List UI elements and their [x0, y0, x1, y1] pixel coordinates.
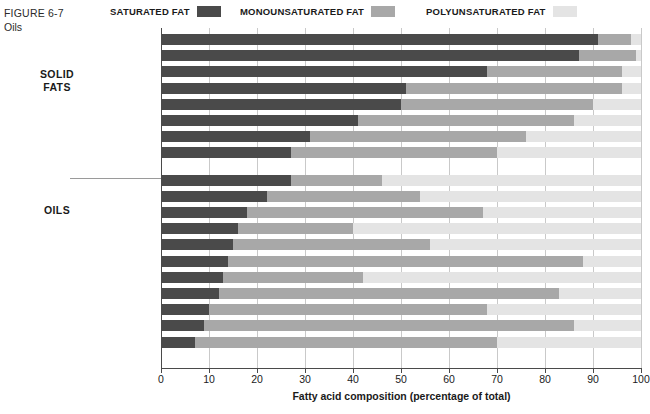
- bar-segment-polyunsaturated[interactable]: [487, 304, 641, 315]
- x-axis-title: Fatty acid composition (percentage of to…: [161, 390, 642, 402]
- bar-segment-monounsaturated[interactable]: [310, 131, 526, 142]
- legend-label-polyunsaturated-fat: POLYUNSATURATED FAT: [426, 6, 546, 17]
- bar-segment-polyunsaturated[interactable]: [382, 175, 641, 186]
- bar-row[interactable]: Olive oil: [161, 256, 641, 267]
- bar-segment-polyunsaturated[interactable]: [636, 50, 641, 61]
- bar-row[interactable]: Peanut oil: [161, 207, 641, 218]
- bar-segment-monounsaturated[interactable]: [247, 207, 482, 218]
- bar-segment-monounsaturated[interactable]: [233, 239, 430, 250]
- bar-row[interactable]: Palm kernel oil*: [161, 50, 641, 61]
- bar-segment-monounsaturated[interactable]: [204, 320, 574, 331]
- bar-row[interactable]: Sunflower oil: [161, 304, 641, 315]
- legend-item-saturated-fat[interactable]: SATURATED FAT: [110, 6, 221, 17]
- bar-segment-monounsaturated[interactable]: [406, 83, 622, 94]
- legend-swatch-monounsaturated-fat: [371, 6, 395, 17]
- bar-segment-monounsaturated[interactable]: [209, 304, 487, 315]
- group-label-solid-fats-line2: FATS: [24, 81, 90, 94]
- bar-row[interactable]: Palm oil*: [161, 99, 641, 110]
- bar-segment-monounsaturated[interactable]: [195, 337, 497, 348]
- bar-segment-polyunsaturated[interactable]: [497, 337, 641, 348]
- group-label-solid-fats: SOLID FATS: [24, 68, 90, 94]
- bar-segment-polyunsaturated[interactable]: [622, 83, 641, 94]
- bar-segment-monounsaturated[interactable]: [487, 66, 621, 77]
- bar-row[interactable]: Beef fat (tallow): [161, 83, 641, 94]
- group-label-oils: OILS: [24, 204, 90, 217]
- bar-segment-saturated[interactable]: [161, 239, 233, 250]
- bar-segment-polyunsaturated[interactable]: [430, 239, 641, 250]
- bar-segment-saturated[interactable]: [161, 223, 238, 234]
- bar-segment-saturated[interactable]: [161, 256, 228, 267]
- bar-segment-saturated[interactable]: [161, 207, 247, 218]
- bar-segment-monounsaturated[interactable]: [219, 288, 560, 299]
- bar-row[interactable]: Cottonseed oil: [161, 175, 641, 186]
- chart-legend: SATURATED FAT MONOUNSATURATED FAT POLYUN…: [104, 6, 639, 22]
- bar-segment-polyunsaturated[interactable]: [622, 66, 641, 77]
- bar-segment-saturated[interactable]: [161, 83, 406, 94]
- bar-segment-saturated[interactable]: [161, 147, 291, 158]
- gridline-100: [641, 28, 642, 368]
- bar-segment-polyunsaturated[interactable]: [420, 191, 641, 202]
- bar-segment-polyunsaturated[interactable]: [353, 223, 641, 234]
- bar-row[interactable]: Canola oil: [161, 337, 641, 348]
- bar-row[interactable]: Pork fat (lard): [161, 115, 641, 126]
- bar-segment-monounsaturated[interactable]: [223, 272, 362, 283]
- bar-segment-monounsaturated[interactable]: [598, 34, 632, 45]
- bar-segment-polyunsaturated[interactable]: [497, 147, 641, 158]
- bar-row[interactable]: Safflower oil: [161, 320, 641, 331]
- legend-item-monounsaturated-fat[interactable]: MONOUNSATURATED FAT: [240, 6, 395, 17]
- bar-segment-saturated[interactable]: [161, 191, 267, 202]
- bar-segment-polyunsaturated[interactable]: [483, 207, 641, 218]
- bar-row[interactable]: Salmon oil: [161, 191, 641, 202]
- x-tick-label-30: 30: [299, 373, 311, 385]
- group-label-solid-fats-line1: SOLID: [24, 68, 90, 81]
- bar-segment-saturated[interactable]: [161, 175, 291, 186]
- bar-segment-monounsaturated[interactable]: [401, 99, 593, 110]
- bar-segment-monounsaturated[interactable]: [291, 147, 497, 158]
- x-tick-label-10: 10: [203, 373, 215, 385]
- bar-row[interactable]: Chicken fat: [161, 131, 641, 142]
- bar-row[interactable]: Shortening**: [161, 147, 641, 158]
- x-tick-label-50: 50: [395, 373, 407, 385]
- legend-label-saturated-fat: SATURATED FAT: [110, 6, 190, 17]
- bar-row[interactable]: Corn oil: [161, 272, 641, 283]
- bar-segment-saturated[interactable]: [161, 50, 579, 61]
- bar-row[interactable]: Avocado oil: [161, 288, 641, 299]
- bar-row[interactable]: Coconut oil*: [161, 34, 641, 45]
- bar-segment-saturated[interactable]: [161, 288, 219, 299]
- x-tick-label-100: 100: [632, 373, 650, 385]
- bar-segment-monounsaturated[interactable]: [238, 223, 353, 234]
- bar-segment-monounsaturated[interactable]: [228, 256, 583, 267]
- bar-segment-monounsaturated[interactable]: [267, 191, 421, 202]
- bar-segment-polyunsaturated[interactable]: [631, 34, 641, 45]
- bar-row[interactable]: Sesame oil: [161, 239, 641, 250]
- bar-segment-saturated[interactable]: [161, 272, 223, 283]
- legend-item-polyunsaturated-fat[interactable]: POLYUNSATURATED FAT: [426, 6, 577, 17]
- x-tick-label-70: 70: [491, 373, 503, 385]
- bar-segment-saturated[interactable]: [161, 115, 358, 126]
- x-tick-label-0: 0: [158, 373, 164, 385]
- bar-row[interactable]: Butter: [161, 66, 641, 77]
- bar-segment-monounsaturated[interactable]: [291, 175, 382, 186]
- group-label-oils-line1: OILS: [24, 204, 90, 217]
- bar-segment-polyunsaturated[interactable]: [559, 288, 641, 299]
- bar-segment-saturated[interactable]: [161, 320, 204, 331]
- group-divider: [70, 178, 161, 179]
- bar-segment-polyunsaturated[interactable]: [526, 131, 641, 142]
- bar-segment-saturated[interactable]: [161, 131, 310, 142]
- bar-segment-saturated[interactable]: [161, 304, 209, 315]
- figure-number: FIGURE 6-7: [4, 6, 114, 20]
- stacked-bar-chart: SOLID FATS OILS Coconut oil*Palm kernel …: [0, 26, 645, 414]
- bar-segment-polyunsaturated[interactable]: [593, 99, 641, 110]
- bar-segment-saturated[interactable]: [161, 337, 195, 348]
- bar-segment-saturated[interactable]: [161, 34, 598, 45]
- bar-segment-monounsaturated[interactable]: [358, 115, 574, 126]
- x-tick-label-90: 90: [587, 373, 599, 385]
- bar-segment-polyunsaturated[interactable]: [363, 272, 641, 283]
- bar-segment-polyunsaturated[interactable]: [574, 320, 641, 331]
- bar-segment-monounsaturated[interactable]: [579, 50, 637, 61]
- bar-segment-saturated[interactable]: [161, 99, 401, 110]
- bar-segment-polyunsaturated[interactable]: [574, 115, 641, 126]
- bar-segment-saturated[interactable]: [161, 66, 487, 77]
- bar-segment-polyunsaturated[interactable]: [583, 256, 641, 267]
- bar-row[interactable]: Soybean oil: [161, 223, 641, 234]
